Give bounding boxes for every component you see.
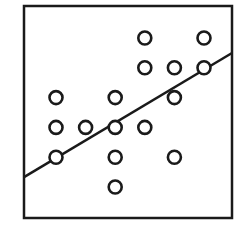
data-point-marker [50,121,63,134]
data-point-marker [109,151,122,164]
data-point-marker [198,61,211,74]
data-point-marker [50,151,63,164]
data-point-marker [168,151,181,164]
data-point-marker [138,32,151,45]
scatter-plot [0,0,248,240]
data-point-marker [109,91,122,104]
data-point-marker [198,32,211,45]
data-point-marker [50,91,63,104]
data-point-marker [168,61,181,74]
data-point-marker [109,121,122,134]
data-point-marker [138,121,151,134]
data-point-marker [168,91,181,104]
data-point-marker [138,61,151,74]
data-point-marker [109,181,122,194]
data-point-marker [79,121,92,134]
